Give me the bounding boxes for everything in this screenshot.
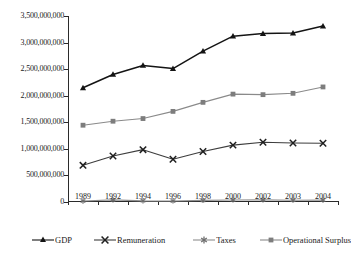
data-point — [170, 156, 176, 162]
y-axis-tick-label: 3,000,000,000 — [21, 39, 64, 47]
data-point — [231, 92, 236, 97]
x-axis-tick-label: 1996 — [165, 192, 181, 201]
legend-item-taxes: Taxes — [193, 234, 236, 246]
x-axis-tick-label: 2000 — [225, 192, 241, 201]
y-axis-tick-label: 0 — [60, 198, 64, 206]
legend-label-taxes: Taxes — [216, 236, 236, 245]
x-axis-tick-label: 2003 — [285, 192, 301, 201]
data-point — [111, 119, 116, 124]
series-plot — [68, 16, 338, 202]
data-point — [320, 23, 326, 29]
legend-item-gdp: GDP — [32, 234, 72, 246]
legend-item-remuneration: Remuneration — [94, 234, 165, 246]
y-axis-tick-label: 500,000,000 — [26, 171, 64, 179]
x-axis-tick — [338, 201, 339, 205]
y-axis-tick-label: 2,000,000,000 — [21, 92, 64, 100]
series-remuneration — [80, 139, 326, 169]
y-axis-tick-label: 1,000,000,000 — [21, 145, 64, 153]
legend-label-operational-surplus: Operational Surplus — [283, 236, 351, 245]
chart-legend: GDP Remuneration Taxes Operat — [26, 232, 336, 248]
y-axis-tick-label: 1,500,000,000 — [21, 118, 64, 126]
legend-label-remuneration: Remuneration — [117, 236, 165, 245]
legend-label-gdp: GDP — [55, 236, 72, 245]
x-axis-tick-label: 1994 — [135, 192, 151, 201]
y-axis-tick-label: 3,500,000,000 — [21, 12, 64, 20]
data-point — [81, 123, 86, 128]
data-point — [321, 85, 326, 90]
legend-marker-gdp-triangle-icon — [32, 234, 54, 246]
x-axis-tick-label: 1998 — [195, 192, 211, 201]
data-point — [201, 100, 206, 105]
x-axis-tick-label: 1989 — [75, 192, 91, 201]
series-operational-surplus — [81, 85, 326, 128]
data-point — [291, 91, 296, 96]
x-axis-tick-label: 1992 — [105, 192, 121, 201]
data-point — [171, 109, 176, 114]
series-gdp — [80, 23, 326, 90]
legend-marker-remuneration-x-icon — [94, 234, 116, 246]
legend-marker-taxes-asterisk-icon — [193, 234, 215, 246]
x-axis-tick-label: 2002 — [255, 192, 271, 201]
data-point — [141, 116, 146, 121]
legend-marker-operational-surplus-square-icon — [260, 234, 282, 246]
legend-item-operational-surplus: Operational Surplus — [260, 234, 351, 246]
y-axis-tick-label: 2,500,000,000 — [21, 65, 64, 73]
data-point — [261, 92, 266, 97]
data-point — [80, 162, 86, 168]
plot-area — [68, 16, 338, 202]
x-axis-tick-label: 2004 — [315, 192, 331, 201]
